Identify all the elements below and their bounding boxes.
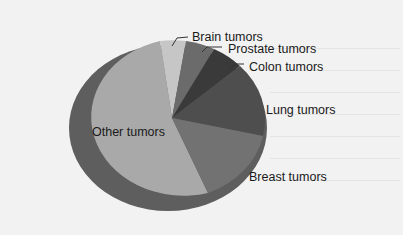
label-colon: Colon tumors <box>249 60 323 74</box>
pie-chart: Brain tumors Prostate tumors Colon tumor… <box>0 0 403 235</box>
label-prostate: Prostate tumors <box>228 42 316 56</box>
label-lung: Lung tumors <box>266 103 335 117</box>
label-other: Other tumors <box>92 125 165 139</box>
label-breast: Breast tumors <box>249 170 327 184</box>
